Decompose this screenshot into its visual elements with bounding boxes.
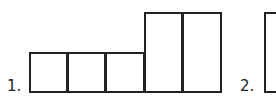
square-cell-1 [29, 52, 68, 93]
figure-2-label: 2. [240, 79, 254, 94]
tall-rect-partial [264, 12, 276, 93]
square-cell-3 [105, 52, 145, 93]
tall-rect-2 [182, 12, 222, 93]
figure-1-label: 1. [7, 79, 21, 94]
tall-rect-1 [144, 12, 183, 93]
square-cell-2 [67, 52, 106, 93]
